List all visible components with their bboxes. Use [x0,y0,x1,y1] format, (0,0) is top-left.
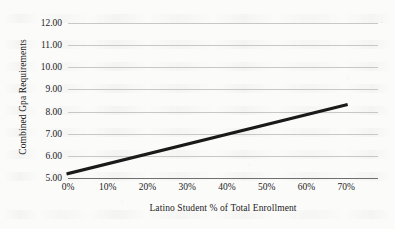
y-tick-11.00: 11.00 [41,40,62,50]
x-axis-title: Latino Student % of Total Enrollment [68,203,378,213]
x-tick-60%: 60% [298,182,315,192]
y-tick-5.00: 5.00 [45,173,62,183]
y-tick-8.00: 8.00 [45,107,62,117]
y-tick-12.00: 12.00 [41,18,62,28]
y-tick-10.00: 10.00 [41,62,62,72]
x-tick-0%: 0% [62,182,75,192]
data-series-line [68,23,378,178]
chart-page: Combined Gpa Requirements 12.0011.0010.0… [0,0,395,229]
x-tick-70%: 70% [337,182,354,192]
y-tick-7.00: 7.00 [45,129,62,139]
y-axis-title: Combined Gpa Requirements [18,12,28,182]
x-tick-30%: 30% [179,182,196,192]
x-tick-20%: 20% [139,182,156,192]
gridline-5.00 [68,178,378,179]
y-tick-6.00: 6.00 [45,151,62,161]
x-tick-50%: 50% [258,182,275,192]
x-tick-10%: 10% [99,182,116,192]
y-tick-9.00: 9.00 [45,84,62,94]
x-tick-40%: 40% [218,182,235,192]
scan-corner-mark: · [381,21,384,24]
plot-area: 12.0011.0010.009.008.007.006.005.00 0%10… [68,23,378,178]
line-chart: Combined Gpa Requirements 12.0011.0010.0… [0,0,395,229]
